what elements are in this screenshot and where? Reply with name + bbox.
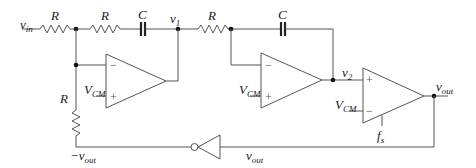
opamp2-minus-sign: −: [265, 58, 272, 72]
opamp2-plus-sign: +: [265, 90, 272, 104]
label-vout-bottom: vout: [246, 148, 264, 165]
label-vin: vin: [20, 17, 33, 34]
resistor-r1: [40, 25, 70, 33]
comparator-plus-sign: +: [366, 73, 373, 87]
label-vcm2: VCM: [239, 82, 261, 99]
label-vcm3: VCM: [335, 97, 357, 114]
capacitor-c2: [281, 22, 285, 36]
label-vout: vout: [436, 79, 454, 96]
capacitor-c1: [141, 22, 145, 36]
node-v2: [331, 78, 336, 83]
circuit-diagram: − + − + + − vin R R C v1 R C R VCM VCM v…: [0, 0, 476, 168]
label-fs: fs: [377, 128, 385, 145]
label-vcm1: VCM: [84, 82, 106, 99]
opamp1-plus-sign: +: [110, 90, 117, 104]
comparator-minus-sign: −: [366, 104, 373, 118]
resistor-r3: [198, 25, 228, 33]
label-r2: R: [100, 8, 109, 23]
inverter: [191, 135, 220, 159]
label-r1: R: [50, 8, 59, 23]
label-r4: R: [59, 91, 68, 106]
label-c1: C: [138, 7, 147, 22]
resistor-r4: [72, 110, 80, 136]
label-v2: v2: [342, 65, 353, 82]
label-c2: C: [278, 7, 287, 22]
node-junction-2: [74, 63, 79, 68]
label-v1: v1: [170, 11, 180, 28]
resistor-r2: [90, 25, 120, 33]
opamp1-minus-sign: −: [110, 58, 117, 72]
label-neg-vout: −vout: [70, 148, 97, 165]
label-r3: R: [207, 8, 216, 23]
